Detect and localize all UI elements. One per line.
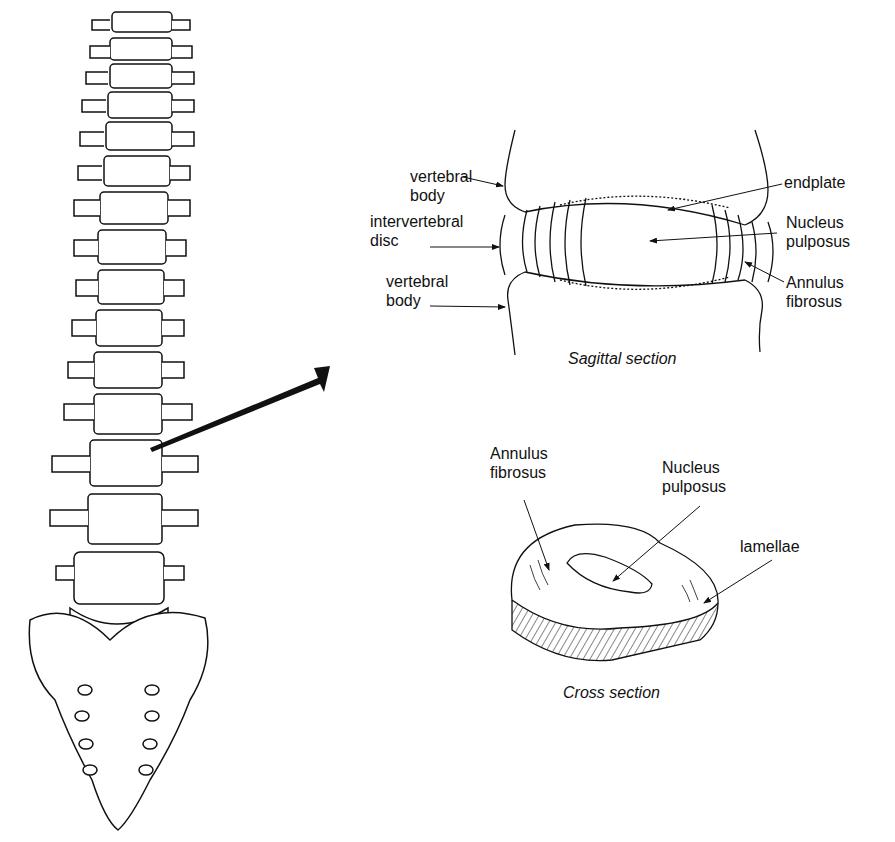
label-annulus-fibrosus: Annulus fibrosus — [786, 273, 844, 311]
caption-sagittal-section: Sagittal section — [568, 350, 677, 368]
sacrum — [29, 612, 208, 830]
label-vertebral-body-top: vertebral body — [410, 167, 472, 205]
diagram-canvas — [0, 0, 895, 842]
label-cross-nucleus-pulposus: Nucleus pulposus — [662, 458, 726, 496]
label-cross-annulus-fibrosus: Annulus fibrosus — [490, 444, 548, 482]
sagittal-section-drawing — [500, 130, 773, 355]
label-endplate: endplate — [784, 173, 845, 192]
sagittal-leaders — [430, 177, 784, 307]
label-vertebral-body-bottom: vertebral body — [386, 272, 448, 310]
label-nucleus-pulposus: Nucleus pulposus — [786, 213, 850, 251]
label-intervertebral-disc: intervertebral disc — [370, 212, 463, 250]
caption-cross-section: Cross section — [563, 684, 660, 702]
label-lamellae: lamellae — [740, 537, 800, 556]
cross-section-drawing — [511, 524, 718, 661]
spine-illustration — [29, 12, 208, 830]
